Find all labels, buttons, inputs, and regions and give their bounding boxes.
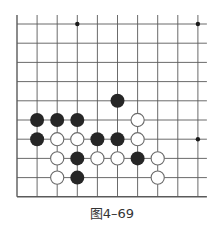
black-stone <box>90 132 104 146</box>
white-stone <box>131 133 144 146</box>
white-stone <box>51 152 64 165</box>
white-stone <box>51 133 64 146</box>
white-stone <box>91 152 104 165</box>
black-stone <box>50 113 64 127</box>
go-board-diagram <box>0 0 224 231</box>
white-stone <box>151 152 164 165</box>
black-stone <box>111 132 125 146</box>
figure-caption: 图4–69 <box>0 203 224 222</box>
white-stone <box>111 152 124 165</box>
black-stone <box>70 171 84 185</box>
star-point <box>196 137 200 141</box>
black-stone <box>131 151 145 165</box>
white-stone <box>131 113 144 126</box>
black-stone <box>111 94 125 108</box>
board-grid-lines <box>17 15 207 197</box>
star-point <box>75 22 79 26</box>
black-stone <box>30 113 44 127</box>
white-stone <box>51 171 64 184</box>
star-point <box>196 22 200 26</box>
white-stone <box>151 171 164 184</box>
black-stone <box>70 113 84 127</box>
black-stone <box>70 151 84 165</box>
black-stone <box>30 132 44 146</box>
white-stone <box>71 133 84 146</box>
